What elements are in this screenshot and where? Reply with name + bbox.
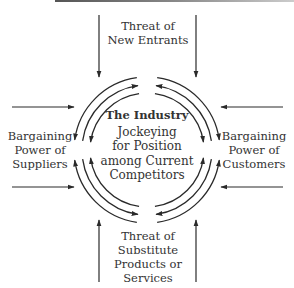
label-line: Power of — [214, 143, 294, 157]
force-label-new-entrants: Threat of New Entrants — [98, 19, 198, 47]
label-line: Threat of — [98, 229, 198, 243]
label-line: Power of — [0, 143, 80, 157]
label-line: Competitors — [90, 168, 204, 183]
force-label-suppliers: Bargaining Power of Suppliers — [0, 129, 80, 171]
label-line: Bargaining — [214, 129, 294, 143]
label-line: Substitute — [98, 243, 198, 257]
force-label-substitutes: Threat of Substitute Products or Service… — [98, 229, 198, 285]
label-line: Services — [98, 271, 198, 285]
industry-center-label: The Industry Jockeying for Position amon… — [90, 108, 204, 183]
label-line: among Current — [90, 154, 204, 169]
label-line: Products or — [98, 257, 198, 271]
force-label-customers: Bargaining Power of Customers — [214, 129, 294, 171]
label-line: Threat of — [98, 19, 198, 33]
industry-title: The Industry — [90, 108, 204, 123]
label-line: for Position — [90, 139, 204, 154]
label-line: Suppliers — [0, 157, 80, 171]
label-line: New Entrants — [98, 33, 198, 47]
label-line: Jockeying — [90, 125, 204, 140]
label-line: Customers — [214, 157, 294, 171]
label-line: Bargaining — [0, 129, 80, 143]
